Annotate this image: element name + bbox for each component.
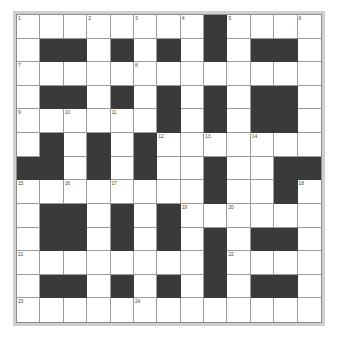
crossword-open-cell[interactable]: 8	[134, 62, 157, 86]
crossword-open-cell[interactable]	[298, 298, 321, 322]
crossword-open-cell[interactable]	[181, 275, 204, 299]
crossword-open-cell[interactable]: 1	[17, 15, 40, 39]
crossword-open-cell[interactable]	[64, 133, 87, 157]
crossword-open-cell[interactable]	[87, 204, 110, 228]
crossword-open-cell[interactable]	[134, 86, 157, 110]
crossword-open-cell[interactable]	[251, 251, 274, 275]
crossword-open-cell[interactable]	[87, 228, 110, 252]
crossword-open-cell[interactable]	[227, 180, 250, 204]
crossword-open-cell[interactable]	[40, 15, 63, 39]
crossword-open-cell[interactable]	[111, 157, 134, 181]
crossword-open-cell[interactable]	[181, 39, 204, 63]
crossword-open-cell[interactable]	[251, 204, 274, 228]
crossword-open-cell[interactable]: 4	[181, 15, 204, 39]
crossword-open-cell[interactable]	[111, 133, 134, 157]
crossword-open-cell[interactable]	[181, 133, 204, 157]
crossword-open-cell[interactable]	[87, 39, 110, 63]
crossword-open-cell[interactable]	[111, 62, 134, 86]
crossword-open-cell[interactable]: 3	[134, 15, 157, 39]
crossword-open-cell[interactable]	[134, 228, 157, 252]
crossword-open-cell[interactable]	[204, 298, 227, 322]
crossword-open-cell[interactable]	[17, 39, 40, 63]
crossword-open-cell[interactable]: 18	[298, 180, 321, 204]
crossword-open-cell[interactable]	[274, 62, 297, 86]
crossword-open-cell[interactable]	[87, 62, 110, 86]
crossword-open-cell[interactable]	[181, 157, 204, 181]
crossword-open-cell[interactable]	[157, 62, 180, 86]
crossword-open-cell[interactable]	[40, 109, 63, 133]
crossword-open-cell[interactable]: 10	[64, 109, 87, 133]
crossword-open-cell[interactable]	[111, 251, 134, 275]
crossword-open-cell[interactable]	[274, 15, 297, 39]
crossword-open-cell[interactable]	[17, 86, 40, 110]
crossword-grid[interactable]: 123456789101112131415161718192021222324	[16, 14, 322, 323]
crossword-open-cell[interactable]: 21	[17, 251, 40, 275]
crossword-open-cell[interactable]: 16	[64, 180, 87, 204]
crossword-open-cell[interactable]	[157, 298, 180, 322]
crossword-open-cell[interactable]	[298, 204, 321, 228]
crossword-open-cell[interactable]	[251, 15, 274, 39]
crossword-open-cell[interactable]: 6	[298, 15, 321, 39]
crossword-open-cell[interactable]: 2	[87, 15, 110, 39]
crossword-open-cell[interactable]	[87, 109, 110, 133]
crossword-open-cell[interactable]: 13	[204, 133, 227, 157]
crossword-open-cell[interactable]	[298, 86, 321, 110]
crossword-open-cell[interactable]	[64, 157, 87, 181]
crossword-open-cell[interactable]: 23	[17, 298, 40, 322]
crossword-open-cell[interactable]	[134, 275, 157, 299]
crossword-open-cell[interactable]: 22	[227, 251, 250, 275]
crossword-open-cell[interactable]	[227, 228, 250, 252]
crossword-open-cell[interactable]	[298, 39, 321, 63]
crossword-open-cell[interactable]	[87, 275, 110, 299]
crossword-open-cell[interactable]	[227, 62, 250, 86]
crossword-open-cell[interactable]	[134, 204, 157, 228]
crossword-open-cell[interactable]: 15	[17, 180, 40, 204]
crossword-open-cell[interactable]	[274, 204, 297, 228]
crossword-open-cell[interactable]: 20	[227, 204, 250, 228]
crossword-open-cell[interactable]	[251, 157, 274, 181]
crossword-open-cell[interactable]	[298, 228, 321, 252]
crossword-open-cell[interactable]	[111, 15, 134, 39]
crossword-open-cell[interactable]	[227, 109, 250, 133]
crossword-open-cell[interactable]	[204, 204, 227, 228]
crossword-open-cell[interactable]: 12	[157, 133, 180, 157]
crossword-open-cell[interactable]: 24	[134, 298, 157, 322]
crossword-open-cell[interactable]: 17	[111, 180, 134, 204]
crossword-open-cell[interactable]	[87, 298, 110, 322]
crossword-open-cell[interactable]	[40, 180, 63, 204]
crossword-open-cell[interactable]	[227, 298, 250, 322]
crossword-open-cell[interactable]	[157, 180, 180, 204]
crossword-open-cell[interactable]	[181, 109, 204, 133]
crossword-open-cell[interactable]	[64, 62, 87, 86]
crossword-open-cell[interactable]	[298, 62, 321, 86]
crossword-open-cell[interactable]	[111, 298, 134, 322]
crossword-open-cell[interactable]: 7	[17, 62, 40, 86]
crossword-open-cell[interactable]	[227, 275, 250, 299]
crossword-open-cell[interactable]: 19	[181, 204, 204, 228]
crossword-open-cell[interactable]	[134, 109, 157, 133]
crossword-open-cell[interactable]	[251, 298, 274, 322]
crossword-open-cell[interactable]	[157, 157, 180, 181]
crossword-open-cell[interactable]	[40, 251, 63, 275]
crossword-open-cell[interactable]	[17, 204, 40, 228]
crossword-open-cell[interactable]	[251, 180, 274, 204]
crossword-open-cell[interactable]	[17, 275, 40, 299]
crossword-open-cell[interactable]	[227, 39, 250, 63]
crossword-open-cell[interactable]	[40, 298, 63, 322]
crossword-open-cell[interactable]	[134, 180, 157, 204]
crossword-open-cell[interactable]	[227, 86, 250, 110]
crossword-open-cell[interactable]	[181, 62, 204, 86]
crossword-open-cell[interactable]: 9	[17, 109, 40, 133]
crossword-open-cell[interactable]	[157, 251, 180, 275]
crossword-open-cell[interactable]	[64, 251, 87, 275]
crossword-open-cell[interactable]	[87, 180, 110, 204]
crossword-open-cell[interactable]	[274, 133, 297, 157]
crossword-open-cell[interactable]	[17, 133, 40, 157]
crossword-open-cell[interactable]	[40, 62, 63, 86]
crossword-open-cell[interactable]	[64, 15, 87, 39]
crossword-open-cell[interactable]	[157, 15, 180, 39]
crossword-open-cell[interactable]	[134, 251, 157, 275]
crossword-open-cell[interactable]	[181, 251, 204, 275]
crossword-open-cell[interactable]	[251, 62, 274, 86]
crossword-open-cell[interactable]	[227, 133, 250, 157]
